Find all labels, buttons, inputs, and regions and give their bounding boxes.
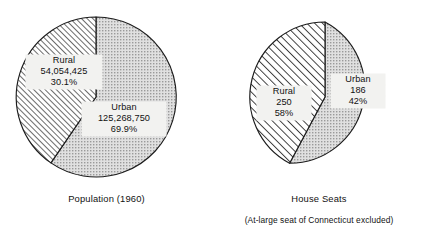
population-caption: Population (1960) [0, 193, 213, 204]
house-seats-pie-panel: Rural 250 58% Urban 186 42% House Seats … [213, 0, 425, 239]
population-urban-percent: 69.9% [82, 124, 166, 135]
population-rural-percent: 30.1% [26, 77, 102, 88]
house-urban-name: Urban [331, 74, 385, 85]
population-rural-label: Rural 54,054,425 30.1% [26, 55, 102, 89]
population-urban-name: Urban [82, 102, 166, 113]
population-rural-value: 54,054,425 [26, 66, 102, 77]
house-rural-label: Rural 250 58% [257, 86, 311, 120]
house-seats-pie-graphic [213, 0, 425, 200]
population-pie-graphic [0, 0, 213, 200]
house-seats-caption: House Seats [213, 193, 425, 204]
house-urban-value: 186 [331, 85, 385, 96]
population-rural-name: Rural [26, 55, 102, 66]
house-urban-percent: 42% [331, 96, 385, 107]
two-pie-chart-figure: Rural 54,054,425 30.1% Urban 125,268,750… [0, 0, 425, 239]
population-urban-value: 125,268,750 [82, 113, 166, 124]
population-urban-label: Urban 125,268,750 69.9% [82, 102, 166, 136]
house-urban-label: Urban 186 42% [331, 74, 385, 108]
house-rural-percent: 58% [257, 108, 311, 119]
house-rural-name: Rural [257, 86, 311, 97]
population-pie-panel: Rural 54,054,425 30.1% Urban 125,268,750… [0, 0, 213, 239]
house-seats-subcaption: (At-large seat of Connecticut excluded) [213, 215, 425, 225]
house-rural-value: 250 [257, 97, 311, 108]
